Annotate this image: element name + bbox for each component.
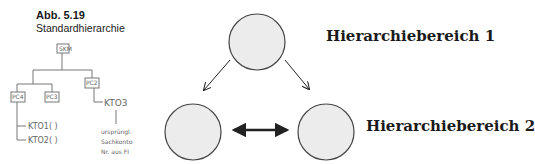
label-hierarchy-area-2: Hierarchiebereich 2 [366,117,535,135]
circle-top [229,14,285,70]
label-hierarchy-area-1: Hierarchiebereich 1 [326,27,495,45]
arrow-top-to-left [204,60,230,90]
circle-bottom-left [165,104,221,160]
arrow-top-to-right [285,60,309,89]
circle-bottom-right [298,104,354,160]
